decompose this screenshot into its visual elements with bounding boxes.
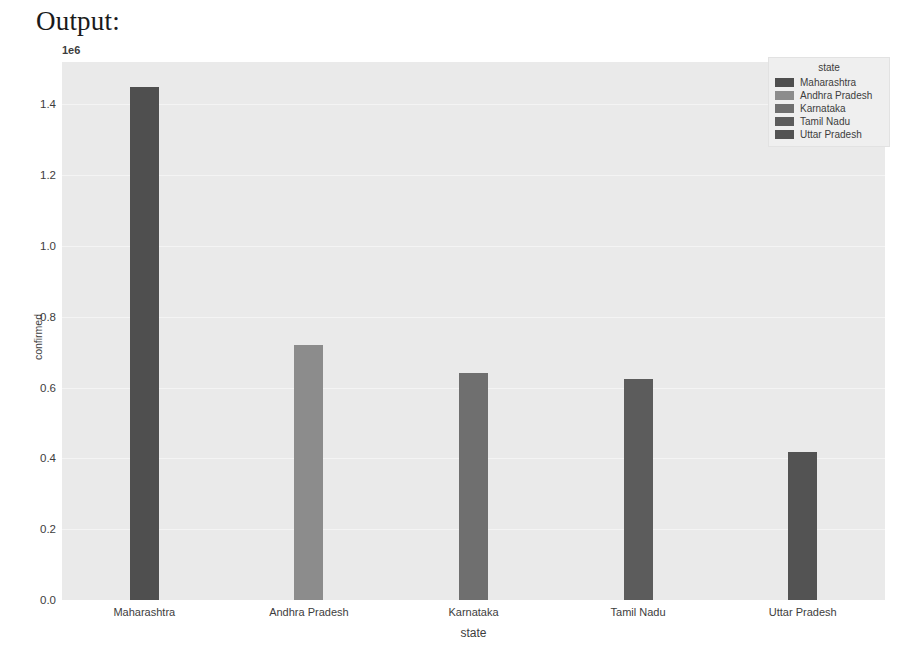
bar[interactable] xyxy=(624,379,653,600)
y-axis-label: confirmed xyxy=(32,277,44,397)
legend-swatch xyxy=(775,117,794,126)
gridline xyxy=(62,104,885,105)
y-axis-offset-text: 1e6 xyxy=(62,44,80,56)
legend-label: Tamil Nadu xyxy=(800,116,850,127)
legend-label: Karnataka xyxy=(800,103,846,114)
gridline xyxy=(62,246,885,247)
bar[interactable] xyxy=(788,452,817,600)
x-tick-label: Tamil Nadu xyxy=(558,606,718,618)
x-tick-label: Karnataka xyxy=(394,606,554,618)
y-tick-label: 1.4 xyxy=(10,98,56,110)
x-tick-label: Uttar Pradesh xyxy=(723,606,883,618)
x-tick-label: Maharashtra xyxy=(64,606,224,618)
y-tick-label: 1.2 xyxy=(10,169,56,181)
plot-area xyxy=(62,62,885,600)
legend-label: Uttar Pradesh xyxy=(800,129,862,140)
legend-entry[interactable]: Karnataka xyxy=(775,102,883,115)
y-tick-label: 0.0 xyxy=(10,594,56,606)
legend-entry[interactable]: Andhra Pradesh xyxy=(775,89,883,102)
x-axis-label: state xyxy=(62,626,885,640)
y-tick-label: 1.0 xyxy=(10,240,56,252)
gridline xyxy=(62,317,885,318)
bar[interactable] xyxy=(130,87,159,600)
legend-entries: MaharashtraAndhra PradeshKarnatakaTamil … xyxy=(775,76,883,141)
x-tick-label: Andhra Pradesh xyxy=(229,606,389,618)
bar-chart-figure: 1e6 0.00.20.40.60.81.01.21.4 confirmed M… xyxy=(0,44,924,646)
legend-swatch xyxy=(775,130,794,139)
x-axis-tick-labels: MaharashtraAndhra PradeshKarnatakaTamil … xyxy=(62,606,885,628)
y-tick-label: 0.2 xyxy=(10,523,56,535)
legend-label: Maharashtra xyxy=(800,77,856,88)
legend-swatch xyxy=(775,104,794,113)
gridline xyxy=(62,175,885,176)
y-tick-label: 0.4 xyxy=(10,452,56,464)
bar[interactable] xyxy=(459,373,488,600)
y-axis-tick-labels: 0.00.20.40.60.81.01.21.4 xyxy=(0,62,56,600)
legend-entry[interactable]: Tamil Nadu xyxy=(775,115,883,128)
legend-swatch xyxy=(775,91,794,100)
legend-entry[interactable]: Maharashtra xyxy=(775,76,883,89)
legend: state MaharashtraAndhra PradeshKarnataka… xyxy=(768,57,890,147)
legend-swatch xyxy=(775,78,794,87)
output-label: Output: xyxy=(36,6,120,37)
legend-label: Andhra Pradesh xyxy=(800,90,872,101)
bar[interactable] xyxy=(294,345,323,600)
legend-entry[interactable]: Uttar Pradesh xyxy=(775,128,883,141)
legend-title: state xyxy=(775,62,883,73)
